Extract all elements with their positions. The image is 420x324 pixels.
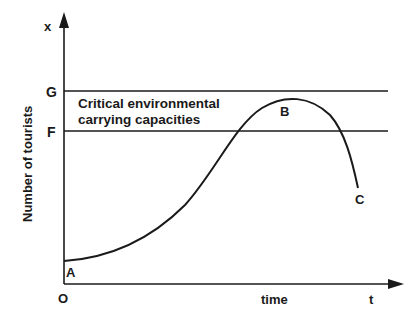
point-label-a: A [66,265,76,280]
x-axis-arrow-icon [388,279,404,289]
origin-label: O [58,291,68,306]
y-axis-end-label: x [44,19,52,34]
chart: x G F Critical environmental carrying ca… [0,0,420,324]
x-axis-end-label: t [369,292,374,307]
annotation-line-2: carrying capacities [78,112,200,127]
reference-label-g: G [46,84,57,100]
point-label-c: C [355,192,365,207]
reference-label-f: F [47,124,56,140]
x-axis-label: time [261,292,288,307]
y-axis-arrow-icon [59,12,69,28]
point-label-b: B [280,104,289,119]
y-axis-label: Number of tourists [20,106,35,222]
annotation-line-1: Critical environmental [78,96,220,111]
